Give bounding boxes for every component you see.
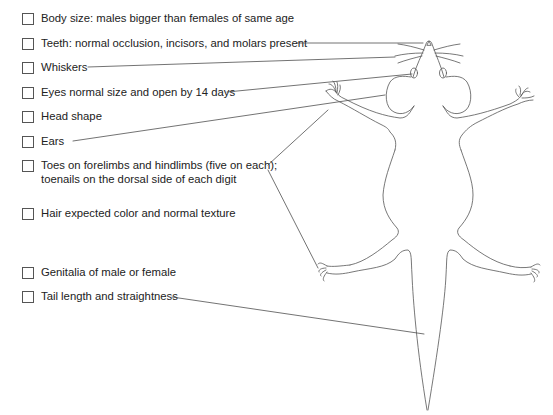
leader-lines <box>73 43 424 334</box>
mouse-diagram <box>0 0 553 415</box>
mouse-outline-icon <box>318 41 540 410</box>
